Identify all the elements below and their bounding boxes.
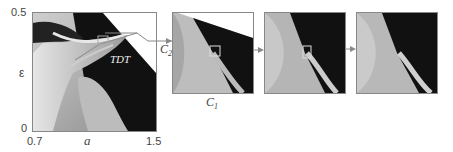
zoom-panel-3: [356, 12, 438, 94]
c2-label: C2: [160, 42, 172, 58]
zoom-panel-2: [264, 12, 346, 94]
zoom-panel-1: [172, 12, 254, 94]
c1-label: C1: [206, 95, 218, 111]
